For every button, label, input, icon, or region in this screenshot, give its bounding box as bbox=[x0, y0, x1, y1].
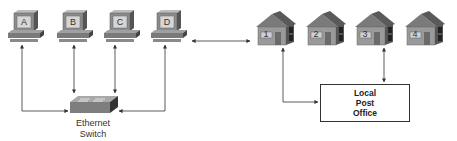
computer-b-label: B bbox=[70, 17, 76, 27]
house-4-label: 4 bbox=[412, 29, 417, 39]
switch-caption: Ethernet Switch bbox=[68, 118, 118, 140]
post-office-line1: Local bbox=[354, 88, 376, 98]
ethernet-switch-icon bbox=[70, 96, 118, 113]
computer-a-label: A bbox=[21, 17, 27, 27]
computer-c-label: C bbox=[117, 17, 124, 27]
house-2: 2 bbox=[306, 11, 346, 45]
computer-c: C bbox=[104, 10, 140, 42]
house-2-label: 2 bbox=[313, 29, 318, 39]
switch-caption-line2: Switch bbox=[68, 129, 118, 140]
computer-b: B bbox=[57, 10, 93, 42]
house-4: 4 bbox=[405, 11, 445, 45]
house-1: 1 bbox=[256, 11, 296, 45]
computer-d-label: D bbox=[164, 17, 171, 27]
local-post-office-box: Local Post Office bbox=[320, 84, 410, 122]
switch-caption-line1: Ethernet bbox=[68, 118, 118, 129]
house-3-label: 3 bbox=[362, 29, 367, 39]
computer-a: A bbox=[8, 10, 44, 42]
post-office-line3: Office bbox=[353, 108, 377, 118]
post-office-line2: Post bbox=[356, 98, 374, 108]
house-3: 3 bbox=[355, 11, 395, 45]
house-1-label: 1 bbox=[263, 29, 268, 39]
computer-d: D bbox=[151, 10, 187, 42]
lan-connections bbox=[22, 41, 250, 111]
